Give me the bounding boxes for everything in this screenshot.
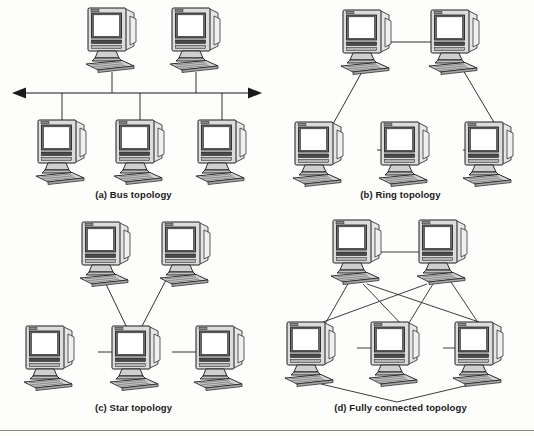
caption-ring-topology: (b) Ring topology bbox=[267, 189, 534, 200]
caption-bus-topology: (a) Bus topology bbox=[0, 189, 267, 200]
page-bottom-rule bbox=[0, 430, 534, 431]
computer-node[interactable] bbox=[160, 222, 210, 287]
bus-topology-diagram bbox=[0, 0, 267, 218]
computer-node[interactable] bbox=[86, 8, 136, 73]
computer-node[interactable] bbox=[417, 220, 467, 285]
bus-drop-lines bbox=[62, 72, 222, 122]
computer-node[interactable] bbox=[379, 122, 429, 187]
computer-node[interactable] bbox=[194, 326, 244, 391]
figure-page: (a) Bus topology (b) Ring topology bbox=[0, 0, 534, 436]
bus-backbone bbox=[12, 88, 262, 99]
computer-node[interactable] bbox=[110, 326, 160, 391]
computer-node[interactable] bbox=[429, 10, 479, 75]
computer-node[interactable] bbox=[453, 322, 503, 387]
computer-node[interactable] bbox=[285, 322, 335, 387]
panel-fully-connected-topology: (d) Fully connected topology bbox=[267, 218, 534, 436]
computer-node[interactable] bbox=[80, 222, 130, 287]
panel-star-topology: (c) Star topology bbox=[0, 218, 267, 436]
caption-star-topology: (c) Star topology bbox=[0, 402, 267, 413]
caption-fully-connected-topology: (d) Fully connected topology bbox=[267, 402, 534, 413]
bus-arrow-left bbox=[12, 88, 26, 99]
computer-node[interactable] bbox=[331, 220, 381, 285]
computer-node[interactable] bbox=[293, 122, 343, 187]
ring-topology-diagram bbox=[267, 0, 534, 218]
computer-node[interactable] bbox=[24, 326, 74, 391]
computer-node[interactable] bbox=[170, 8, 220, 73]
computer-node[interactable] bbox=[114, 120, 164, 185]
computer-node[interactable] bbox=[196, 120, 246, 185]
panel-bus-topology: (a) Bus topology bbox=[0, 0, 267, 218]
panel-ring-topology: (b) Ring topology bbox=[267, 0, 534, 218]
computer-node[interactable] bbox=[463, 122, 513, 187]
computer-node[interactable] bbox=[369, 322, 419, 387]
computer-node[interactable] bbox=[36, 120, 86, 185]
bus-arrow-right bbox=[248, 88, 262, 99]
computer-node[interactable] bbox=[341, 10, 391, 75]
